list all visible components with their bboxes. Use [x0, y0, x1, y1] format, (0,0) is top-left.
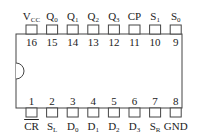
pin-number-10: 10: [145, 37, 165, 48]
pin-number-8: 8: [166, 96, 186, 107]
pin-number-14: 14: [63, 37, 83, 48]
pin-number-13: 13: [83, 37, 103, 48]
pin-9: [170, 25, 181, 34]
pin-number-6: 6: [125, 96, 145, 107]
pin-8: [170, 108, 181, 117]
pin-label-8: GND: [164, 121, 188, 132]
pin-number-1: 1: [22, 96, 42, 107]
pin-13: [88, 25, 99, 34]
pin-14: [67, 25, 78, 34]
pin-11: [129, 25, 140, 34]
pin-10: [150, 25, 161, 34]
pin-number-2: 2: [42, 96, 62, 107]
pin-number-11: 11: [125, 37, 145, 48]
pin-number-3: 3: [63, 96, 83, 107]
pin-number-15: 15: [42, 37, 62, 48]
pin-number-12: 12: [104, 37, 124, 48]
pin-4: [88, 108, 99, 117]
pin-number-5: 5: [104, 96, 124, 107]
pin-3: [67, 108, 78, 117]
pin-5: [108, 108, 119, 117]
pin-2: [47, 108, 58, 117]
pin-number-9: 9: [166, 37, 186, 48]
pin-12: [108, 25, 119, 34]
bottom-pin-row: [26, 108, 181, 117]
pin-7: [150, 108, 161, 117]
pin-1: [26, 108, 37, 117]
pin-label-9: S0: [164, 11, 188, 22]
pin-15: [47, 25, 58, 34]
pin-number-7: 7: [145, 96, 165, 107]
pin-16: [26, 25, 37, 34]
pin-6: [129, 108, 140, 117]
pin-number-16: 16: [22, 37, 42, 48]
pin-number-4: 4: [83, 96, 103, 107]
top-pin-row: [26, 25, 181, 34]
